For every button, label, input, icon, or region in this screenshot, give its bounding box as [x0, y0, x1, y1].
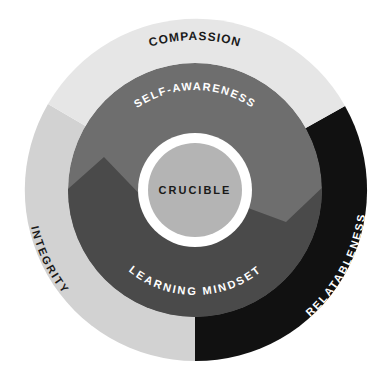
- label-crucible: CRUCIBLE: [159, 184, 232, 196]
- crucible-diagram: COMPASSION SELF-AWARENESS LEARNING MINDS…: [0, 0, 387, 381]
